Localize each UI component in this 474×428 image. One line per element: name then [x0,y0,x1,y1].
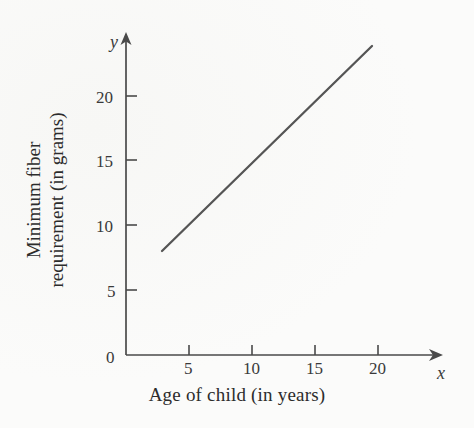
x-tick-label-20: 20 [369,360,386,377]
x-axis-ticks [189,345,378,355]
data-line-series-1 [162,46,372,251]
y-axis-title: Minimum fiber requirement (in grams) [22,60,86,340]
y-tick-label-5: 5 [107,283,116,300]
y-tick-label-20: 20 [96,89,113,106]
y-axis-ticks [126,96,137,290]
x-axis-variable-label: x [437,364,445,382]
y-axis-variable-label: y [110,33,118,51]
y-axis-title-line-1: Minimum fiber [22,60,45,340]
x-tick-label-10: 10 [243,360,260,377]
y-axis [121,32,132,355]
x-tick-label-5: 5 [184,360,193,377]
y-tick-label-15: 15 [96,153,113,170]
y-axis-title-line-2: requirement (in grams) [45,60,68,340]
x-tick-label-15: 15 [306,360,323,377]
y-tick-label-10: 10 [96,218,113,235]
x-axis [126,349,443,361]
x-axis-title: Age of child (in years) [0,384,474,406]
y-tick-label-0: 0 [106,349,115,366]
chart-figure: 0 5 10 15 20 5 10 15 20 y x Age of child… [0,0,474,428]
